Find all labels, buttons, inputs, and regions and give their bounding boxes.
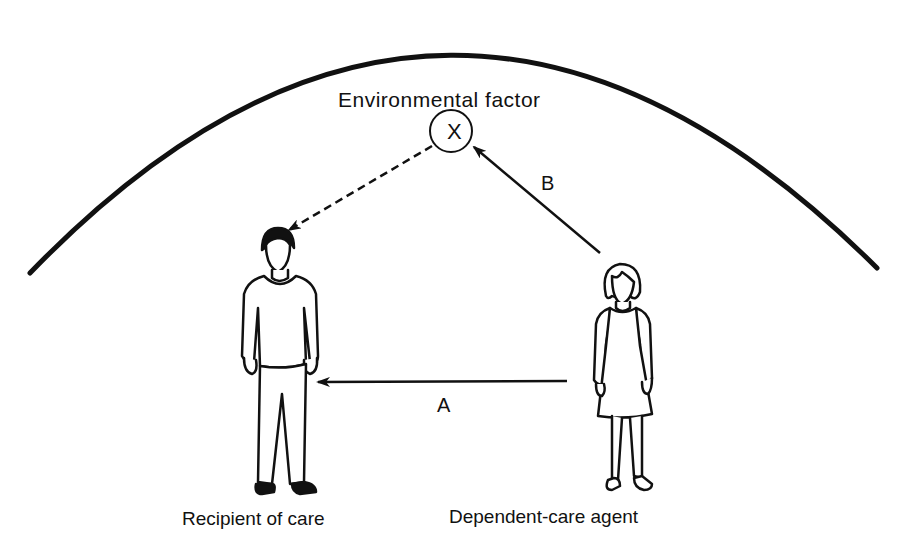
environmental-factor-label: Environmental factor bbox=[338, 88, 541, 112]
diagram-canvas bbox=[0, 0, 897, 541]
dashed-arrow-x-to-recipient bbox=[289, 146, 432, 230]
environmental-factor-symbol: X bbox=[447, 119, 462, 145]
recipient-of-care-label: Recipient of care bbox=[182, 508, 325, 530]
arrow-a-label: A bbox=[437, 394, 450, 417]
arrow-a-agent-to-recipient bbox=[318, 381, 567, 382]
recipient-figure-icon bbox=[242, 228, 318, 494]
arrow-b-label: B bbox=[541, 172, 554, 195]
arrow-b-agent-to-factor bbox=[474, 147, 600, 253]
agent-figure-icon bbox=[594, 264, 652, 490]
dependent-care-agent-label: Dependent-care agent bbox=[449, 506, 638, 528]
